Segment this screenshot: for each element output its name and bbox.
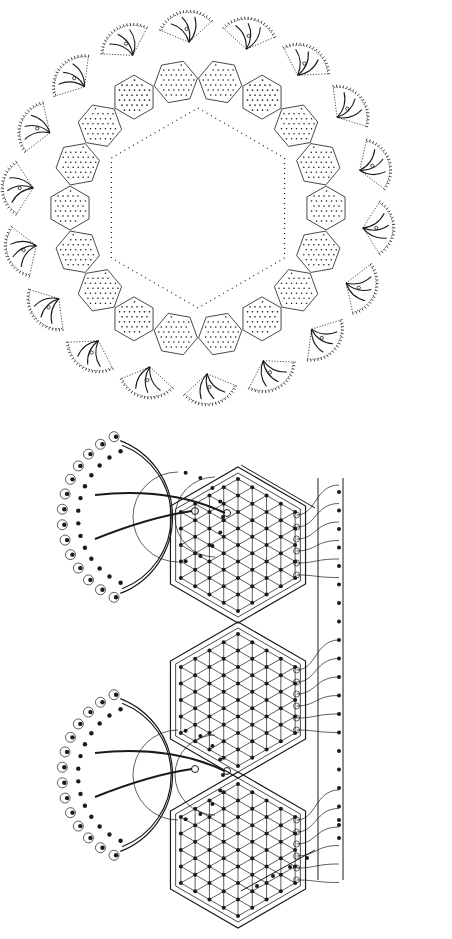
lattice-node	[207, 593, 211, 597]
lobe-wire	[10, 241, 36, 245]
lattice-line	[195, 578, 209, 586]
lattice-line	[238, 725, 252, 733]
module-dot	[325, 259, 327, 261]
lobe-tick	[56, 72, 58, 73]
module-dot	[288, 123, 290, 125]
lobe-tick	[37, 320, 39, 322]
bus-terminal-dot	[337, 620, 341, 624]
lattice-node	[250, 790, 254, 794]
lattice-line	[195, 725, 209, 733]
lattice-line	[195, 867, 209, 875]
module-dot	[330, 171, 332, 173]
module-dot	[318, 215, 320, 217]
terminal-dot	[107, 455, 111, 459]
module-dot	[90, 138, 92, 140]
module-dot	[134, 311, 136, 313]
module-dot	[306, 128, 308, 130]
lattice-node	[236, 682, 240, 686]
module-dot	[333, 166, 335, 168]
lobe-tick	[57, 69, 59, 70]
lattice-line	[224, 684, 238, 692]
lattice-line	[238, 487, 252, 495]
lattice-node	[222, 535, 226, 539]
module-dot	[277, 311, 279, 313]
lattice-node	[250, 518, 254, 522]
module-dot	[183, 331, 185, 333]
module-dot	[107, 287, 109, 289]
module-dot	[320, 239, 322, 241]
lattice-node	[250, 690, 254, 694]
lattice-line	[224, 595, 238, 603]
bus-terminal-dot	[337, 818, 341, 822]
module-dot	[305, 161, 307, 163]
module-dot	[326, 210, 328, 212]
lattice-line	[195, 659, 209, 667]
module-dot	[291, 138, 293, 140]
terminal-dot	[88, 710, 92, 714]
arc-node	[184, 817, 188, 821]
module-dot	[335, 249, 337, 251]
semicircle-lobe	[57, 432, 230, 603]
lattice-line	[181, 858, 195, 866]
module-dot	[60, 200, 62, 202]
patent-diagram	[0, 0, 452, 939]
terminal-dot	[83, 742, 87, 746]
module-dot	[313, 264, 315, 266]
lobe-tick	[255, 18, 256, 20]
module-dot	[323, 205, 325, 207]
main-wire	[95, 769, 192, 797]
lobe-tick	[183, 394, 185, 396]
module-dot	[293, 277, 295, 279]
lobe-tick	[167, 392, 168, 394]
module-dot	[131, 94, 133, 96]
terminal-dot	[107, 574, 111, 578]
lobe-tick	[20, 145, 22, 146]
module-dot	[300, 161, 302, 163]
lattice-line	[195, 717, 209, 725]
module-dot	[303, 113, 305, 115]
bus-terminal-dot	[337, 768, 341, 772]
lattice-node	[265, 527, 269, 531]
lattice-line	[281, 520, 295, 528]
module-dot	[77, 166, 79, 168]
lobe-tick	[272, 389, 273, 391]
lobe-tick	[330, 353, 332, 355]
lobe-tick	[288, 378, 290, 379]
lattice-line	[195, 545, 209, 553]
module-dot	[185, 74, 187, 76]
module-dot	[212, 69, 214, 71]
module-dot	[183, 89, 185, 91]
lattice-line	[252, 684, 266, 692]
lobe-wire	[59, 82, 85, 87]
module-dot	[303, 277, 305, 279]
lattice-line	[267, 659, 281, 667]
module-dot	[235, 336, 237, 338]
lattice-node	[222, 673, 226, 677]
wiring-lobe	[4, 226, 36, 277]
trailing-dot	[305, 856, 309, 860]
lattice-line	[267, 553, 281, 561]
lobe-tick	[379, 201, 380, 203]
module-dot	[220, 74, 222, 76]
module-dot	[225, 94, 227, 96]
module-dot	[82, 254, 84, 256]
module-dot	[210, 326, 212, 328]
module-dot	[126, 306, 128, 308]
lattice-node	[236, 832, 240, 836]
module-hexagon	[78, 105, 121, 146]
lattice-node	[236, 665, 240, 669]
module-dot	[323, 215, 325, 217]
bus-terminal-dot	[337, 564, 341, 568]
module-dot	[65, 200, 67, 202]
module-dot	[215, 346, 217, 348]
wiring-lobe	[120, 367, 174, 399]
lobe-tick	[340, 319, 342, 320]
module-dot	[315, 161, 317, 163]
lattice-node	[222, 584, 226, 588]
lobe-scalloped-edge	[29, 290, 63, 329]
module-dot	[330, 161, 332, 163]
lobe-tick	[192, 400, 193, 402]
module-dot	[288, 277, 290, 279]
terminal-dot	[89, 815, 93, 819]
module-dot	[310, 151, 312, 153]
